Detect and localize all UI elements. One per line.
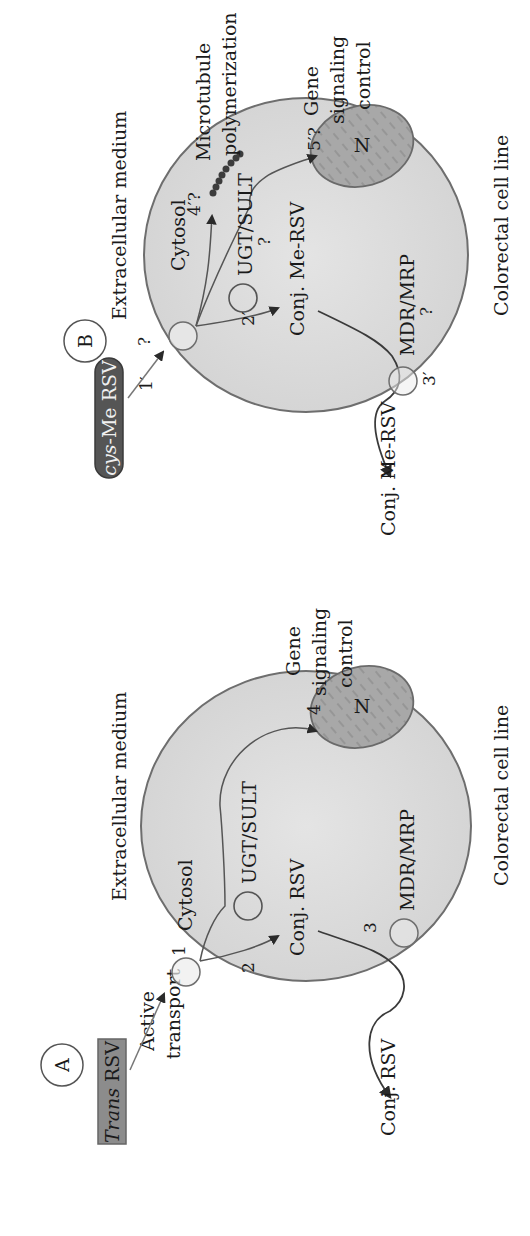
entry-arrow-b [128, 352, 163, 398]
exported-conj-me-rsv-b: Conj. Me-RSV [377, 401, 399, 536]
cell-line-label-b: Colorectal cell line [490, 135, 512, 316]
cell-line-label-a: Colorectal cell line [490, 705, 512, 886]
step-4p-label: 4′? [184, 192, 204, 216]
nucleus-a-label: N [354, 695, 371, 717]
microtubule-line2: polymerization [218, 12, 240, 156]
extracellular-label-b: Extracellular medium [108, 111, 130, 320]
cys-me-rsv-box: cys-Me RSV [95, 358, 123, 478]
enzyme-label-b: UGT/SULT [234, 173, 256, 276]
panel-b: B cys-Me RSV 1′ ? Extracellular medium N… [64, 12, 512, 536]
svg-text:cys-Me RSV: cys-Me RSV [98, 360, 120, 476]
efflux-question-b: ? [416, 307, 436, 316]
panel-a: A Trans RSV Active transport Extracellul… [41, 608, 512, 1144]
gene-line3-b: control [352, 41, 374, 110]
gene-line2-b: signaling [326, 36, 348, 124]
gene-line1-b: Gene [300, 66, 322, 116]
panel-b-badge-label: B [74, 334, 96, 348]
gene-line3-a: control [334, 619, 356, 688]
active-transport-line1: Active [136, 991, 158, 1052]
cytosol-label-a: Cytosol [174, 859, 196, 931]
step-2-label: 2 [238, 962, 258, 973]
gene-line1-a: Gene [282, 626, 304, 676]
enzyme-question-b: ? [254, 237, 274, 246]
panel-a-badge: A [41, 1044, 83, 1086]
resveratrol-metabolism-diagram: A Trans RSV Active transport Extracellul… [0, 0, 530, 1236]
mdr-mrp-label-a: MDR/MRP [396, 809, 418, 911]
svg-text:Trans RSV: Trans RSV [101, 1041, 123, 1143]
mdr-mrp-transporter-b [389, 367, 417, 395]
step-2p-label: 2′ [238, 311, 258, 326]
diagram-stage: A Trans RSV Active transport Extracellul… [0, 0, 530, 1236]
step-1p-question: ? [134, 337, 154, 346]
trans-rsv-box: Trans RSV [98, 1039, 126, 1144]
enzyme-label-a: UGT/SULT [238, 781, 260, 884]
exported-conj-rsv-a: Conj. RSV [377, 1038, 399, 1136]
microtubule-line1: Microtubule [192, 43, 214, 161]
conj-rsv-label-a: Conj. RSV [286, 858, 308, 956]
nucleus-b-label: N [354, 134, 371, 156]
entry-transporter-b [169, 322, 197, 350]
compound-italic: Trans [101, 1088, 123, 1143]
mdr-mrp-transporter-a [390, 919, 418, 947]
step-4-label: 4 [304, 704, 324, 715]
panel-a-badge-label: A [51, 1058, 73, 1073]
entry-transporter-a [172, 958, 200, 986]
step-3-label: 3 [360, 922, 380, 933]
conj-me-rsv-label-b: Conj. Me-RSV [286, 201, 308, 336]
compound-italic-b: cys [98, 444, 120, 475]
panel-b-badge: B [64, 320, 106, 362]
gene-line2-a: signaling [308, 608, 330, 696]
extracellular-label-a: Extracellular medium [108, 692, 130, 901]
compound-rest: RSV [101, 1041, 123, 1088]
step-1-label: 1 [169, 945, 189, 956]
step-5p-label: 5′? [304, 127, 324, 151]
compound-rest-b: -Me RSV [98, 360, 120, 444]
mdr-mrp-label-b: MDR/MRP [396, 254, 418, 356]
step-3p-label: 3′ [419, 371, 439, 386]
